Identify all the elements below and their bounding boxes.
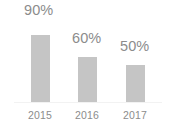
bar-2017[interactable] [126,65,145,103]
value-label-2015: 90% [24,3,53,18]
category-label-2015: 2015 [20,110,60,121]
value-label-2017: 50% [120,39,149,54]
plot-area: 90% 2015 60% 2016 50% 2017 [0,0,171,132]
value-label-2016: 60% [72,31,101,46]
category-label-2017: 2017 [115,110,155,121]
bar-chart: 90% 2015 60% 2016 50% 2017 [0,0,171,132]
category-label-2016: 2016 [67,110,107,121]
bar-2015[interactable] [31,35,50,103]
bar-2016[interactable] [78,57,97,102]
